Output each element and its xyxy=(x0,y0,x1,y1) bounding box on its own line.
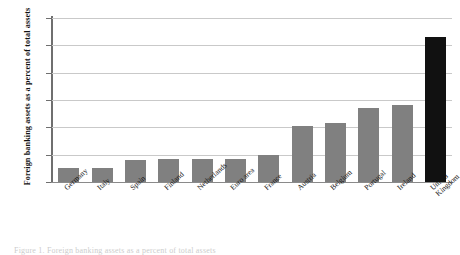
y-axis-title: Foreign banking assets as a percent of t… xyxy=(23,2,32,192)
bar-ireland xyxy=(392,105,413,182)
y-tick-mark-10 xyxy=(46,155,51,156)
gridline-30 xyxy=(52,100,452,101)
y-tick-mark-50 xyxy=(46,45,51,46)
bar-portugal xyxy=(358,108,379,182)
gridline-60 xyxy=(52,18,452,19)
gridline-40 xyxy=(52,73,452,74)
gridline-50 xyxy=(52,45,452,46)
y-tick-mark-20 xyxy=(46,127,51,128)
y-tick-mark-40 xyxy=(46,73,51,74)
y-tick-mark-30 xyxy=(46,100,51,101)
figure-caption: Figure 1. Foreign banking assets as a pe… xyxy=(14,246,216,255)
bar-united-kingdom xyxy=(425,37,446,182)
chart-figure: Foreign banking assets as a percent of t… xyxy=(0,0,460,255)
y-tick-mark-0 xyxy=(46,182,51,183)
y-tick-mark-60 xyxy=(46,18,51,19)
plot-area xyxy=(52,18,452,182)
